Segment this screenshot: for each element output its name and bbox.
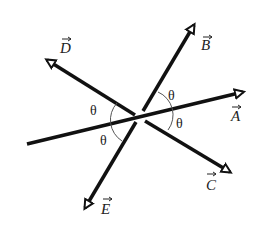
vector-e [85,122,136,208]
label-e-text: E [100,201,110,217]
label-c-text: C [206,177,217,193]
label-b: B [201,35,212,53]
vector-arrow-icon [207,172,216,176]
label-e: E [100,197,112,217]
label-b-text: B [201,37,210,53]
theta-upper-right: θ [168,88,175,103]
label-d-text: D [59,40,71,56]
label-d: D [59,37,71,56]
vector-c [145,121,230,172]
theta-lower-left: θ [100,133,107,148]
theta-lower-right: θ [176,116,183,131]
label-a: A [230,105,241,124]
vector-a [27,92,243,144]
label-a-text: A [230,108,241,124]
label-c: C [206,172,217,193]
theta-upper-left: θ [90,103,97,118]
vector-diagram: θ θ θ θ B D A C E [0,0,265,233]
